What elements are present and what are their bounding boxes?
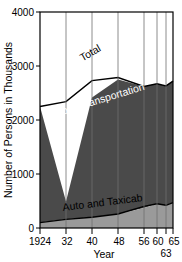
y-tick-label-2000: 2000 <box>12 115 35 126</box>
chart-container: 4000 3000 2000 1000 0 1924 32 40 48 56 6… <box>0 0 182 262</box>
x-tick-label-63: 63 <box>160 248 172 259</box>
y-tick-label-0: 0 <box>28 223 34 234</box>
x-tick-label-65: 65 <box>168 236 180 247</box>
y-tick-label-1000: 1000 <box>12 169 35 180</box>
x-tick-label-48: 48 <box>113 236 125 247</box>
x-tick-label-32: 32 <box>61 236 73 247</box>
x-tick-label-40: 40 <box>86 236 98 247</box>
x-axis-ticks <box>40 228 173 234</box>
y-tick-label-3000: 3000 <box>12 61 35 72</box>
y-tick-label-4000: 4000 <box>12 7 35 18</box>
y-axis-title: Number of Persons in Thousands <box>2 42 14 198</box>
x-tick-label-1924: 1924 <box>29 236 52 247</box>
x-axis-title: Year <box>93 248 115 260</box>
x-tick-label-60: 60 <box>152 236 164 247</box>
x-tick-label-56: 56 <box>138 236 150 247</box>
area-chart: 4000 3000 2000 1000 0 1924 32 40 48 56 6… <box>0 0 182 262</box>
